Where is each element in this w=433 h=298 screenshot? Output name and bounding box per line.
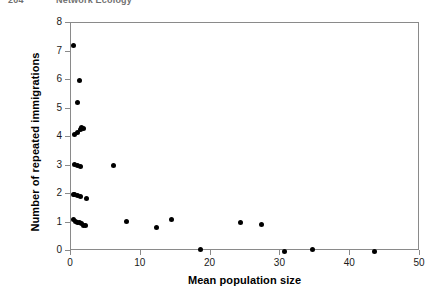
data-point <box>75 100 80 105</box>
data-point <box>75 193 80 198</box>
plot-area <box>70 22 419 250</box>
data-point <box>72 192 77 197</box>
x-tick-mark <box>419 250 420 255</box>
data-points-layer <box>71 23 418 249</box>
data-point <box>75 130 80 135</box>
data-point <box>71 192 76 197</box>
y-tick-mark <box>65 165 70 166</box>
data-point <box>154 225 159 230</box>
y-tick-mark <box>65 51 70 52</box>
data-point <box>169 217 174 222</box>
x-tick-mark <box>349 250 350 255</box>
y-tick-mark <box>65 108 70 109</box>
x-tick-mark <box>210 250 211 255</box>
data-point <box>73 219 78 224</box>
y-tick-mark <box>65 193 70 194</box>
figure-page: 204 Network Ecology 012345678 0102030405… <box>0 0 433 298</box>
data-point <box>111 163 116 168</box>
data-point <box>71 217 76 222</box>
x-tick-mark <box>279 250 280 255</box>
x-tick-mark <box>140 250 141 255</box>
y-axis-title: Number of repeated immigrations <box>29 27 41 257</box>
data-point <box>78 127 83 132</box>
y-tick-mark <box>65 22 70 23</box>
y-tick-label: 8 <box>32 17 62 27</box>
x-tick-label: 10 <box>120 258 160 268</box>
data-point <box>84 196 89 201</box>
data-point <box>282 249 287 254</box>
data-point <box>79 125 84 130</box>
data-point <box>77 220 82 225</box>
y-tick-mark <box>65 222 70 223</box>
y-tick-mark <box>65 136 70 137</box>
x-tick-label: 20 <box>190 258 230 268</box>
x-tick-label: 30 <box>259 258 299 268</box>
x-tick-mark <box>70 250 71 255</box>
data-point <box>238 220 243 225</box>
data-point <box>79 221 84 226</box>
data-point <box>310 247 315 252</box>
x-tick-label: 0 <box>50 258 90 268</box>
data-point <box>78 164 83 169</box>
data-point <box>198 247 203 252</box>
data-point <box>71 43 76 48</box>
data-point <box>75 220 80 225</box>
scatter-chart: 012345678 01020304050 Mean population si… <box>0 0 433 298</box>
data-point <box>72 132 77 137</box>
data-point <box>77 78 82 83</box>
x-axis-title: Mean population size <box>70 274 419 286</box>
data-point <box>259 222 264 227</box>
data-point <box>81 223 86 228</box>
x-tick-label: 50 <box>399 258 433 268</box>
x-tick-label: 40 <box>329 258 369 268</box>
data-point <box>72 162 77 167</box>
data-point <box>78 194 83 199</box>
data-point <box>372 249 377 254</box>
y-tick-mark <box>65 79 70 80</box>
data-point <box>75 163 80 168</box>
data-point <box>81 126 86 131</box>
data-point <box>83 223 88 228</box>
data-point <box>124 219 129 224</box>
